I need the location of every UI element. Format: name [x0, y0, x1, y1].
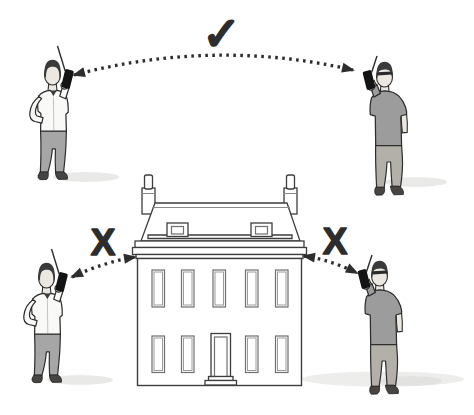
dormer-window	[256, 227, 268, 235]
man-tee-top-right	[362, 56, 447, 195]
chimney-pot	[145, 175, 153, 189]
building	[133, 175, 307, 386]
window	[246, 270, 259, 307]
cornice-main	[133, 248, 307, 255]
checkmark-icon: ✓	[202, 7, 241, 61]
window	[182, 270, 195, 307]
window	[182, 336, 195, 373]
x-mark-left: X	[91, 222, 116, 263]
scene-clear-signal: ✓	[30, 7, 447, 195]
two-way-radio-diagram: ✓	[0, 0, 474, 415]
window	[246, 336, 259, 373]
door-leaf	[215, 337, 228, 377]
dormer-left	[167, 223, 188, 237]
window	[152, 336, 165, 373]
x-mark-right: X	[323, 221, 348, 262]
chimney-pot	[287, 175, 295, 189]
window	[213, 270, 226, 307]
scene-blocked-signal: X X	[24, 175, 464, 394]
dormer-window	[172, 227, 184, 235]
cornice-upper	[135, 241, 304, 248]
man-shirt-bottom-left	[24, 249, 113, 385]
window	[152, 270, 165, 307]
illustration-canvas: ✓	[0, 0, 474, 415]
window	[276, 270, 289, 307]
door-step	[205, 381, 237, 386]
dormer-right	[251, 223, 272, 237]
window	[276, 336, 289, 373]
man-shirt-top-left	[30, 46, 119, 182]
